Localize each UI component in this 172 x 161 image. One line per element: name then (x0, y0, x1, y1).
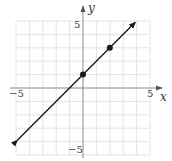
data-point (107, 45, 113, 51)
y-tick-min: −5 (68, 144, 83, 155)
y-tick-max: 5 (74, 19, 80, 30)
x-tick-max: 5 (147, 88, 153, 99)
y-axis-label: y (87, 1, 95, 15)
data-line (17, 22, 135, 140)
coordinate-plane: x y −5 5 5 −5 (0, 0, 172, 161)
data-point (80, 72, 86, 78)
x-axis-label: x (160, 90, 167, 104)
x-tick-min: −5 (9, 88, 24, 99)
